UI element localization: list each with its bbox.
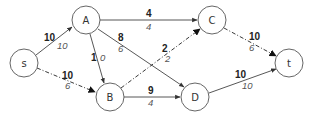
flow-s-B: 6 xyxy=(65,80,71,91)
flow-B-C: 2 xyxy=(164,53,171,64)
diagram-canvas: s A B C D t 10 10 10 6 4 4 1 0 8 6 2 2 9… xyxy=(0,0,312,113)
svg-text:s: s xyxy=(21,58,26,69)
edge-A-D xyxy=(98,29,184,87)
edge-B-C xyxy=(121,29,200,88)
svg-text:D: D xyxy=(191,92,199,103)
capacity-D-t: 10 xyxy=(235,69,247,80)
node-B: B xyxy=(96,83,124,111)
flow-B-D: 4 xyxy=(148,97,153,108)
svg-text:t: t xyxy=(287,58,291,69)
flow-s-A: 10 xyxy=(57,40,68,51)
capacity-A-C: 4 xyxy=(146,8,152,19)
flow-D-t: 10 xyxy=(242,80,253,91)
node-t: t xyxy=(275,49,303,77)
svg-text:B: B xyxy=(107,92,114,103)
svg-text:C: C xyxy=(209,15,216,26)
capacity-s-A: 10 xyxy=(44,32,56,43)
flow-network-diagram: s A B C D t 10 10 10 6 4 4 1 0 8 6 2 2 9… xyxy=(0,0,312,113)
capacity-A-D: 8 xyxy=(118,32,124,43)
svg-text:A: A xyxy=(83,15,90,26)
capacity-C-t: 10 xyxy=(249,31,261,42)
node-s: s xyxy=(10,49,38,77)
flow-A-B: 0 xyxy=(100,52,106,63)
capacity-A-B: 1 xyxy=(91,52,97,63)
capacity-B-D: 9 xyxy=(148,85,154,96)
flow-A-C: 4 xyxy=(146,21,151,32)
flow-C-t: 6 xyxy=(249,42,255,53)
node-C: C xyxy=(198,6,226,34)
node-D: D xyxy=(181,83,209,111)
flow-A-D: 6 xyxy=(118,43,124,54)
node-A: A xyxy=(72,6,100,34)
